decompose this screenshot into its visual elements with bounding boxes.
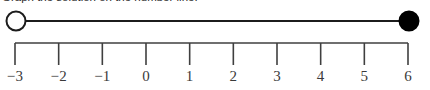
- tick-label: 6: [391, 67, 425, 85]
- number-line-figure: Graph the solution on the number line. −…: [0, 0, 430, 90]
- tick-label: −2: [42, 67, 76, 85]
- tick-label: 1: [173, 67, 207, 85]
- tick-mark-group: [15, 43, 408, 65]
- tick-label: 5: [347, 67, 381, 85]
- tick-label: 0: [129, 67, 163, 85]
- open-endpoint-circle[interactable]: [7, 12, 26, 31]
- tick-label: 4: [304, 67, 338, 85]
- tick-label: 3: [260, 67, 294, 85]
- closed-endpoint-circle[interactable]: [400, 12, 419, 31]
- tick-label: −3: [0, 67, 32, 85]
- tick-label: −1: [85, 67, 119, 85]
- tick-label: 2: [216, 67, 250, 85]
